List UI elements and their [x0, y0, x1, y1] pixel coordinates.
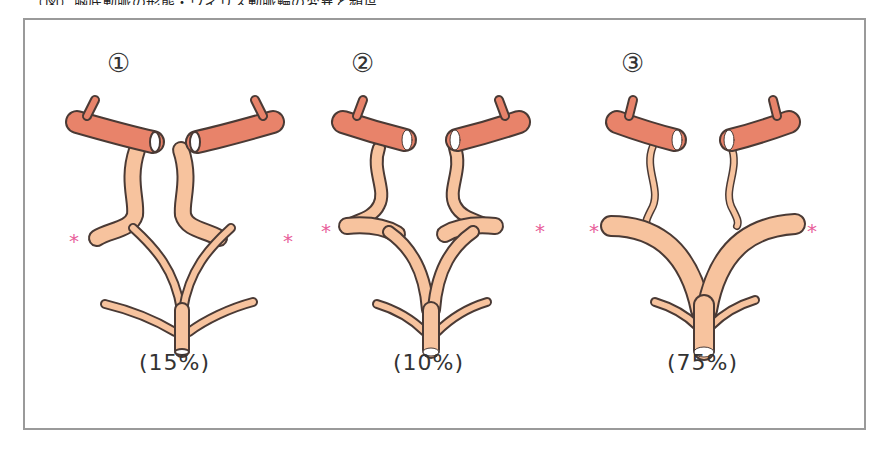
asterisk-left: * — [69, 229, 79, 253]
asterisk-right: * — [807, 219, 817, 243]
panel-1: ① — [25, 20, 295, 432]
asterisk-right: * — [283, 229, 293, 253]
asterisk-right: * — [535, 219, 545, 243]
percent-label: (10%) — [393, 350, 464, 375]
percent-label: (15%) — [139, 350, 210, 375]
asterisk-left: * — [321, 219, 331, 243]
panel-3: ③ — [567, 20, 837, 432]
diagram-frame: ① — [23, 18, 866, 430]
panel-2: ② — [297, 20, 567, 432]
asterisk-left: * — [589, 219, 599, 243]
cropped-caption: （図）脳底動脈の形態・ウィリス動脈輪の変異と頻度 — [30, 0, 650, 5]
percent-label: (75%) — [667, 350, 738, 375]
